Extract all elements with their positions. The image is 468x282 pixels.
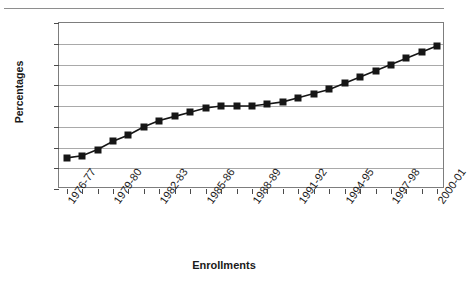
x-tick-mark bbox=[144, 189, 145, 194]
x-tick-mark bbox=[360, 189, 361, 194]
x-tick-mark bbox=[82, 189, 83, 194]
data-point-marker bbox=[233, 103, 240, 110]
x-tick-mark bbox=[406, 189, 407, 194]
x-tick-mark bbox=[128, 189, 129, 194]
data-point-marker bbox=[341, 80, 348, 87]
x-tick-mark bbox=[190, 189, 191, 194]
x-tick-mark bbox=[314, 189, 315, 194]
data-point-marker bbox=[187, 109, 194, 116]
data-point-marker bbox=[279, 98, 286, 105]
data-point-marker bbox=[418, 49, 425, 56]
data-point-marker bbox=[434, 42, 441, 49]
data-point-marker bbox=[125, 132, 132, 139]
data-point-marker bbox=[140, 123, 147, 130]
x-tick-mark bbox=[237, 189, 238, 194]
data-point-marker bbox=[310, 90, 317, 97]
x-tick-mark bbox=[329, 189, 330, 194]
x-tick-mark bbox=[422, 189, 423, 194]
data-point-marker bbox=[357, 73, 364, 80]
data-point-marker bbox=[63, 154, 70, 161]
data-point-marker bbox=[403, 55, 410, 62]
header-divider bbox=[4, 8, 444, 9]
data-point-marker bbox=[264, 100, 271, 107]
x-tick-mark bbox=[221, 189, 222, 194]
data-point-marker bbox=[202, 105, 209, 112]
plot-area: 151413121110987 1976-771979-801982-83198… bbox=[58, 22, 444, 188]
data-point-marker bbox=[249, 103, 256, 110]
y-axis-title: Percentages bbox=[13, 37, 25, 147]
x-tick-mark bbox=[175, 189, 176, 194]
x-tick-mark bbox=[267, 189, 268, 194]
data-point-marker bbox=[295, 94, 302, 101]
x-tick-mark bbox=[283, 189, 284, 194]
y-tick-mark bbox=[54, 189, 59, 190]
data-point-marker bbox=[171, 113, 178, 120]
data-point-marker bbox=[326, 86, 333, 93]
data-point-marker bbox=[94, 146, 101, 153]
data-point-marker bbox=[110, 138, 117, 145]
x-tick-mark bbox=[376, 189, 377, 194]
data-point-marker bbox=[218, 103, 225, 110]
data-point-marker bbox=[156, 117, 163, 124]
x-tick-mark bbox=[98, 189, 99, 194]
data-point-marker bbox=[372, 67, 379, 74]
data-point-marker bbox=[79, 152, 86, 159]
data-point-marker bbox=[387, 61, 394, 68]
x-axis-title: Enrollments bbox=[0, 259, 448, 271]
